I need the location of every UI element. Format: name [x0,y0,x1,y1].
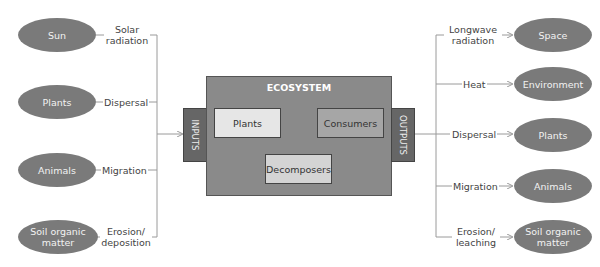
output-destination-space: Space [514,18,592,52]
outputs-label: OUTPUTS [398,115,408,155]
flow-label-dispersal-out: Dispersal [451,129,497,140]
input-source-animals: Animals [18,153,96,187]
source-label: Animals [38,165,76,176]
inputs-tab: INPUTS [183,108,207,162]
flow-label-erosion-leaching: Erosion/ leaching [452,226,500,248]
component-decomposers: Decomposers [265,154,332,184]
component-plants: Plants [214,108,281,138]
flow-label-longwave-radiation: Longwave radiation [444,24,502,46]
source-label: Plants [43,97,72,108]
output-destination-plants: Plants [514,118,592,152]
output-destination-animals: Animals [514,169,592,203]
flow-label-erosion-deposition: Erosion/ deposition [100,226,152,248]
output-destination-environment: Environment [514,67,592,101]
component-consumers: Consumers [317,108,384,138]
destination-label: Soil organic matter [523,226,583,248]
source-label: Sun [48,30,66,41]
flow-label-dispersal: Dispersal [103,97,149,108]
flow-label-migration-out: Migration [452,181,499,192]
flow-label-solar-radiation: Solar radiation [104,24,150,46]
flow-label-migration: Migration [101,165,148,176]
output-destination-soil-organic-matter: Soil organic matter [514,220,592,254]
inputs-label: INPUTS [190,120,200,151]
flow-label-heat: Heat [462,79,487,90]
source-label: Soil organic matter [28,226,88,248]
destination-label: Plants [539,130,568,141]
destination-label: Space [539,30,568,41]
input-source-sun: Sun [18,18,96,52]
input-source-soil-organic-matter: Soil organic matter [18,220,98,254]
ecosystem-title: ECOSYSTEM [207,82,391,93]
outputs-tab: OUTPUTS [391,108,415,162]
ecosystem-box: ECOSYSTEM Plants Consumers Decomposers [206,76,392,196]
input-source-plants: Plants [18,85,96,119]
destination-label: Environment [523,79,584,90]
destination-label: Animals [534,181,572,192]
